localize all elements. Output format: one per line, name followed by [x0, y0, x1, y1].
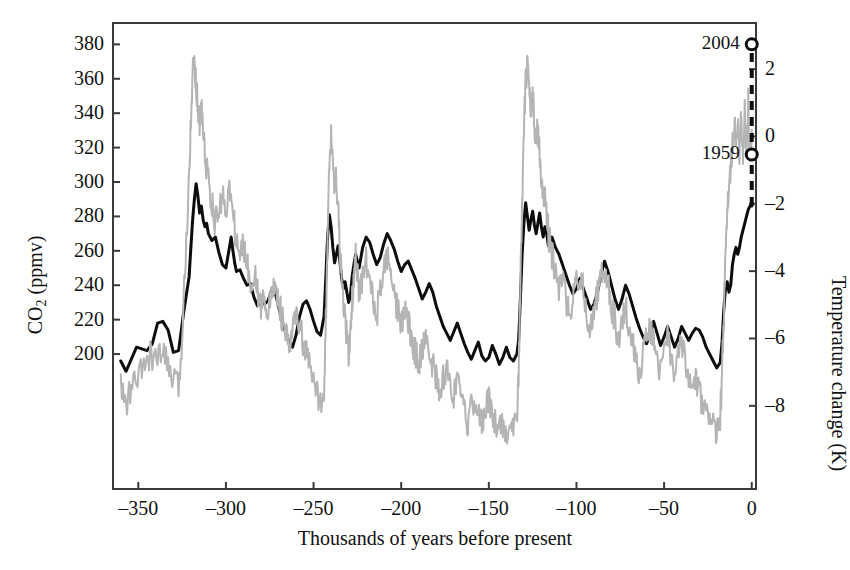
- y-tick-right--8: –8: [765, 395, 825, 415]
- y-tick-right-0: 0: [765, 125, 825, 145]
- y-tick-left-360: 360: [32, 68, 104, 88]
- y-axis-left-label: CO2 (ppmv): [24, 190, 50, 380]
- x-tick--250: –250: [274, 498, 354, 518]
- x-tick--100: –100: [536, 498, 616, 518]
- x-axis-label: Thousands of years before present: [205, 527, 665, 550]
- y-tick-right--2: –2: [765, 193, 825, 213]
- marker-2004-label: 2004: [660, 32, 740, 54]
- marker-1959: [746, 149, 757, 160]
- y-tick-left-340: 340: [32, 102, 104, 122]
- y-tick-left-380: 380: [32, 33, 104, 53]
- y-tick-right-2: 2: [765, 58, 825, 78]
- y-axis-left-label-subscript: 2: [34, 300, 49, 307]
- y-axis-right-label: Temperature change (K): [827, 249, 850, 499]
- y-axis-left-label-unit: (ppmv): [24, 236, 46, 300]
- y-tick-right--4: –4: [765, 260, 825, 280]
- y-tick-right--6: –6: [765, 327, 825, 347]
- marker-1959-label: 1959: [660, 142, 740, 164]
- x-tick--200: –200: [361, 498, 441, 518]
- marker-2004: [746, 39, 757, 50]
- x-tick-0: 0: [712, 498, 792, 518]
- x-tick--300: –300: [186, 498, 266, 518]
- y-axis-left-label-main: CO: [24, 307, 46, 335]
- x-tick--350: –350: [98, 498, 178, 518]
- y-tick-left-320: 320: [32, 137, 104, 157]
- x-tick--150: –150: [449, 498, 529, 518]
- y-tick-left-300: 300: [32, 171, 104, 191]
- x-tick--50: –50: [624, 498, 704, 518]
